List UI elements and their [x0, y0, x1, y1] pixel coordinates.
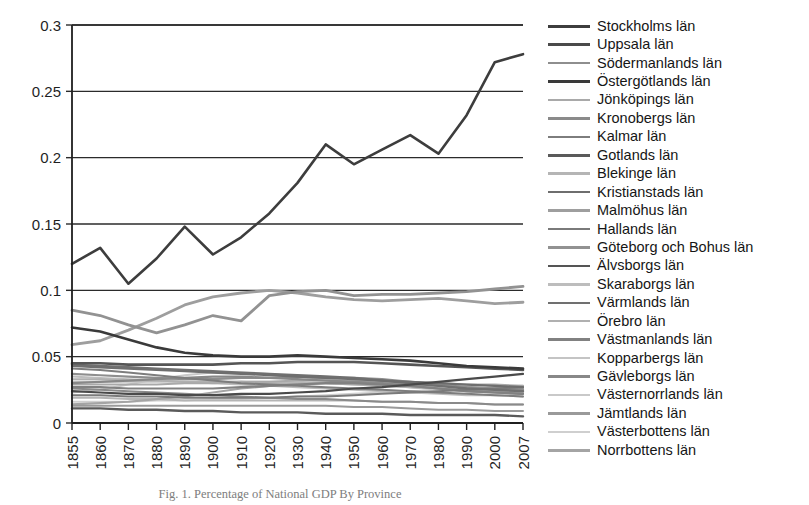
- legend-item-label: Blekinge län: [597, 166, 676, 181]
- legend-item-label: Västerbottens län: [597, 424, 710, 439]
- legend-swatch-icon: [548, 172, 590, 175]
- legend-item[interactable]: Jämtlands län: [548, 404, 806, 422]
- x-axis-tick-label: 1990: [458, 436, 475, 469]
- legend-item[interactable]: Gotlands län: [548, 146, 806, 164]
- legend-item[interactable]: Göteborg och Bohus län: [548, 238, 806, 256]
- y-axis-tick-label: 0.1: [40, 282, 61, 299]
- legend-swatch-icon: [548, 136, 590, 139]
- legend-item[interactable]: Örebro län: [548, 312, 806, 330]
- y-axis-tick-label: 0.2: [40, 149, 61, 166]
- legend-swatch-icon: [548, 283, 590, 286]
- series-line: [72, 54, 523, 284]
- legend-item[interactable]: Södermanlands län: [548, 54, 806, 72]
- legend-item[interactable]: Kristianstads län: [548, 183, 806, 201]
- legend-swatch-icon: [548, 431, 590, 434]
- legend-swatch-icon: [548, 80, 590, 83]
- legend-swatch-icon: [548, 412, 590, 415]
- legend-item-label: Västernorrlands län: [597, 387, 723, 402]
- legend-item[interactable]: Västernorrlands län: [548, 386, 806, 404]
- legend-item[interactable]: Stockholms län: [548, 17, 806, 35]
- legend-swatch-icon: [548, 375, 590, 378]
- legend-item-label: Kalmar län: [597, 129, 666, 144]
- legend-item-label: Stockholms län: [597, 19, 695, 34]
- x-axis-tick-label: 1930: [289, 436, 306, 469]
- legend-item-label: Älvsborgs län: [597, 258, 684, 273]
- legend-swatch-icon: [548, 394, 590, 397]
- legend-item-label: Södermanlands län: [597, 56, 722, 71]
- y-axis-tick-label: 0: [53, 415, 61, 432]
- legend-item[interactable]: Norrbottens län: [548, 441, 806, 459]
- x-axis-tick-label: 1880: [148, 436, 165, 469]
- legend-item-label: Gävleborgs län: [597, 369, 695, 384]
- legend-swatch-icon: [548, 265, 590, 268]
- legend-item-label: Jönköpings län: [597, 92, 694, 107]
- x-axis-tick-label: 1860: [92, 436, 109, 469]
- legend-item-label: Kopparbergs län: [597, 351, 703, 366]
- x-axis-tick-label: 1870: [120, 436, 137, 469]
- chart-legend: Stockholms länUppsala länSödermanlands l…: [548, 17, 806, 460]
- legend-item-label: Gotlands län: [597, 148, 678, 163]
- legend-item-label: Östergötlands län: [597, 74, 711, 89]
- series-line: [72, 290, 523, 344]
- legend-swatch-icon: [548, 154, 590, 157]
- legend-swatch-icon: [548, 228, 590, 231]
- legend-swatch-icon: [548, 449, 590, 452]
- legend-item-label: Malmöhus län: [597, 203, 687, 218]
- x-axis-tick-label: 2000: [486, 436, 503, 469]
- legend-item[interactable]: Blekinge län: [548, 165, 806, 183]
- legend-item[interactable]: Jönköpings län: [548, 91, 806, 109]
- legend-item[interactable]: Östergötlands län: [548, 72, 806, 90]
- legend-item[interactable]: Kopparbergs län: [548, 349, 806, 367]
- legend-swatch-icon: [548, 117, 590, 120]
- legend-item-label: Kristianstads län: [597, 185, 703, 200]
- x-axis-tick-label: 1970: [402, 436, 419, 469]
- legend-swatch-icon: [548, 62, 590, 65]
- legend-item[interactable]: Malmöhus län: [548, 201, 806, 219]
- y-axis-tick-label: 0.25: [32, 83, 61, 100]
- legend-item[interactable]: Kalmar län: [548, 128, 806, 146]
- legend-item[interactable]: Västerbottens län: [548, 423, 806, 441]
- x-axis-tick-label: 1950: [345, 436, 362, 469]
- legend-swatch-icon: [548, 338, 590, 341]
- legend-swatch-icon: [548, 357, 590, 360]
- figure-panel: 00.050.10.150.20.250.3185518601870188018…: [0, 0, 809, 505]
- legend-item[interactable]: Kronobergs län: [548, 109, 806, 127]
- figure-caption: Fig. 1. Percentage of National GDP By Pr…: [0, 487, 560, 505]
- x-axis-tick-label: 1960: [374, 436, 391, 469]
- legend-swatch-icon: [548, 99, 590, 102]
- legend-item[interactable]: Gävleborgs län: [548, 367, 806, 385]
- legend-item-label: Göteborg och Bohus län: [597, 240, 753, 255]
- legend-item-label: Hallands län: [597, 222, 677, 237]
- x-axis-tick-label: 1920: [261, 436, 278, 469]
- legend-swatch-icon: [548, 43, 590, 46]
- x-axis-tick-label: 1940: [317, 436, 334, 469]
- legend-swatch-icon: [548, 25, 590, 28]
- legend-item[interactable]: Älvsborgs län: [548, 257, 806, 275]
- y-axis-tick-label: 0.05: [32, 348, 61, 365]
- x-axis-tick-label: 1855: [64, 436, 81, 469]
- y-axis-tick-label: 0.3: [40, 17, 61, 34]
- x-axis-tick-label: 2007: [515, 436, 532, 469]
- legend-item-label: Uppsala län: [597, 37, 674, 52]
- legend-item[interactable]: Västmanlands län: [548, 330, 806, 348]
- x-axis-tick-label: 1910: [233, 436, 250, 469]
- legend-item-label: Värmlands län: [597, 295, 690, 310]
- x-axis-tick-label: 1900: [204, 436, 221, 469]
- legend-item-label: Västmanlands län: [597, 332, 712, 347]
- legend-item[interactable]: Värmlands län: [548, 294, 806, 312]
- legend-item-label: Skaraborgs län: [597, 277, 695, 292]
- legend-item[interactable]: Hallands län: [548, 220, 806, 238]
- legend-swatch-icon: [548, 320, 590, 323]
- legend-item-label: Örebro län: [597, 314, 666, 329]
- legend-swatch-icon: [548, 209, 590, 212]
- legend-item-label: Kronobergs län: [597, 111, 695, 126]
- legend-swatch-icon: [548, 246, 590, 249]
- x-axis-tick-label: 1980: [430, 436, 447, 469]
- legend-item[interactable]: Skaraborgs län: [548, 275, 806, 293]
- y-axis-tick-label: 0.15: [32, 216, 61, 233]
- legend-item-label: Jämtlands län: [597, 406, 686, 421]
- legend-swatch-icon: [548, 191, 590, 194]
- legend-swatch-icon: [548, 302, 590, 305]
- x-axis-tick-label: 1890: [176, 436, 193, 469]
- legend-item[interactable]: Uppsala län: [548, 35, 806, 53]
